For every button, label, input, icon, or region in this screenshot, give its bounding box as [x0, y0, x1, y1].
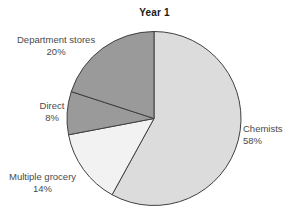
pie-label-direct: Direct 8% — [26, 100, 78, 124]
pie-label-chemists: Chemists 58% — [243, 123, 283, 147]
pie-label-department-stores: Department stores 20% — [17, 34, 95, 58]
pie-label-department-stores-value: 20% — [17, 46, 95, 58]
pie-label-multiple-grocery-value: 14% — [9, 183, 76, 195]
pie-label-department-stores-name: Department stores — [17, 34, 95, 46]
pie-label-multiple-grocery-name: Multiple grocery — [9, 171, 76, 183]
pie-label-direct-name: Direct — [26, 100, 78, 112]
pie-label-direct-value: 8% — [26, 112, 78, 124]
pie-label-chemists-name: Chemists — [243, 123, 283, 135]
pie-label-chemists-value: 58% — [243, 135, 283, 147]
pie-chart: Year 1 Department stores 20% Direct 8% M… — [0, 0, 297, 219]
pie-label-multiple-grocery: Multiple grocery 14% — [9, 171, 76, 195]
